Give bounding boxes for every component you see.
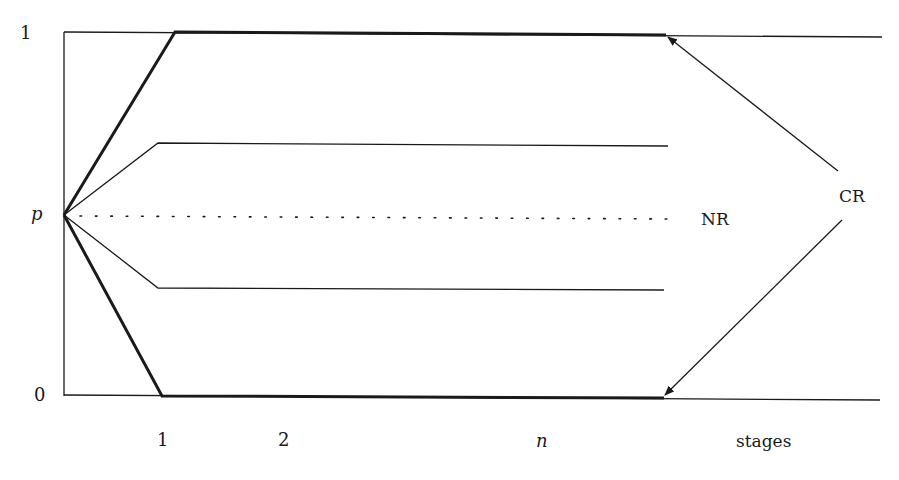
x-axis-label-stages: stages [736,433,791,450]
cr-lower-path [64,215,664,398]
y-label-one: 1 [20,24,31,42]
y-label-p: p [31,205,43,223]
nr-label: NR [701,211,729,228]
nr-dotted-line [80,216,672,219]
diagram-canvas [0,0,899,480]
cr-label: CR [839,188,865,205]
y-label-zero: 0 [34,386,45,404]
cr-arrow-lower [665,220,842,395]
upper-intermediate-path [64,143,668,215]
x-label-stage-n: n [536,432,548,450]
cr-arrow-upper [668,37,838,171]
cr-upper-path [64,32,666,215]
x-label-stage-2: 2 [278,431,289,449]
x-label-stage-1: 1 [157,431,168,449]
lower-intermediate-path [64,215,664,290]
